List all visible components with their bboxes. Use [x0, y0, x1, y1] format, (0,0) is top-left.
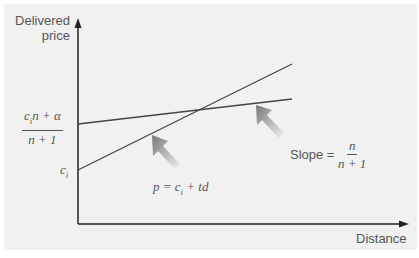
annotation-slope: Slope = n n + 1 — [290, 138, 366, 171]
eq-rest: + td — [183, 179, 208, 194]
tick-den: n + 1 — [28, 131, 56, 147]
eq-eq: = c — [160, 179, 181, 194]
y-label-line1: Delivered — [14, 13, 70, 28]
tick-ci-sub: i — [66, 170, 69, 180]
y-tick-lower: ci — [60, 162, 68, 183]
y-label-line2: price — [14, 28, 70, 43]
slope-label: Slope = — [290, 147, 338, 162]
y-tick-upper: cin + α n + 1 — [22, 108, 63, 147]
slope-num: n — [347, 138, 358, 155]
y-axis-label: Delivered price — [14, 13, 70, 43]
x-axis — [78, 221, 409, 228]
slope-den: n + 1 — [338, 155, 366, 171]
arrow-icon-line1 — [152, 135, 180, 169]
y-axis — [75, 18, 82, 224]
annotation-p-equation: p = ci + td — [153, 179, 208, 200]
x-axis-label: Distance — [356, 231, 407, 246]
tick-rest: n + α — [32, 108, 61, 123]
arrow-icon-line2 — [256, 105, 284, 138]
